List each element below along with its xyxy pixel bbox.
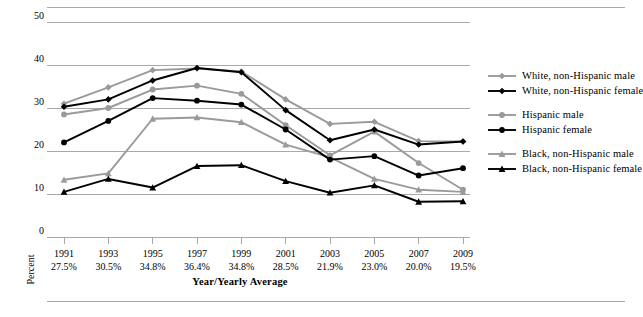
x-axis-average-label: 34.8% bbox=[131, 261, 175, 272]
data-point-marker bbox=[194, 65, 201, 72]
data-point-marker bbox=[499, 127, 505, 133]
y-axis-tick-label: 30 bbox=[22, 96, 44, 107]
legend-group: Hispanic maleHispanic female bbox=[487, 107, 643, 137]
data-point-marker bbox=[150, 87, 156, 93]
data-point-marker bbox=[149, 67, 156, 74]
data-point-marker bbox=[238, 91, 244, 97]
data-point-marker bbox=[416, 160, 422, 166]
legend-swatch-circle-icon bbox=[487, 123, 517, 137]
data-point-marker bbox=[105, 105, 111, 111]
legend-swatch-triangle-icon bbox=[487, 162, 517, 176]
data-point-marker bbox=[499, 87, 506, 94]
legend-item[interactable]: Black, non-Hispanic female bbox=[487, 161, 643, 176]
x-axis-year-label: 2003 bbox=[308, 248, 352, 259]
line-chart-plot-area: Percent Year/Yearly Average 01020304050 … bbox=[0, 0, 480, 260]
chart-legend: White, non-Hispanic maleWhite, non-Hispa… bbox=[487, 68, 643, 185]
legend-item[interactable]: Hispanic male bbox=[487, 107, 643, 122]
chart-svg bbox=[0, 0, 480, 260]
data-point-marker bbox=[327, 157, 333, 163]
y-axis-tick-label: 20 bbox=[22, 139, 44, 150]
x-axis-average-label: 34.8% bbox=[219, 261, 263, 272]
legend-item[interactable]: Hispanic female bbox=[487, 122, 643, 137]
data-point-marker bbox=[194, 83, 200, 89]
x-axis-year-label: 1991 bbox=[42, 248, 86, 259]
chart-series bbox=[61, 83, 466, 193]
legend-label: Black, non-Hispanic female bbox=[522, 162, 642, 176]
x-axis-year-label: 2005 bbox=[352, 248, 396, 259]
data-point-marker bbox=[150, 95, 156, 101]
data-point-marker bbox=[460, 138, 467, 145]
y-axis-title: Percent bbox=[25, 240, 36, 300]
data-point-marker bbox=[416, 173, 422, 179]
data-point-marker bbox=[61, 140, 67, 146]
x-axis-average-label: 28.5% bbox=[264, 261, 308, 272]
y-axis-tick-label: 0 bbox=[22, 225, 44, 236]
legend-label: White, non-Hispanic male bbox=[522, 69, 635, 83]
x-axis-title: Year/Yearly Average bbox=[0, 276, 480, 287]
legend-group: Black, non-Hispanic maleBlack, non-Hispa… bbox=[487, 146, 643, 176]
x-axis-year-label: 1993 bbox=[86, 248, 130, 259]
data-point-marker bbox=[105, 84, 112, 91]
data-point-marker bbox=[371, 153, 377, 159]
x-axis-average-label: 30.5% bbox=[86, 261, 130, 272]
x-axis-average-label: 21.9% bbox=[308, 261, 352, 272]
data-point-marker bbox=[499, 112, 505, 118]
legend-swatch-circle-icon bbox=[487, 108, 517, 122]
chart-series bbox=[61, 162, 467, 205]
legend-group: White, non-Hispanic maleWhite, non-Hispa… bbox=[487, 68, 643, 98]
data-point-marker bbox=[460, 165, 466, 171]
x-axis-average-label: 20.0% bbox=[397, 261, 441, 272]
legend-item[interactable]: White, non-Hispanic male bbox=[487, 68, 643, 83]
y-axis-tick-label: 40 bbox=[22, 53, 44, 64]
legend-item[interactable]: White, non-Hispanic female bbox=[487, 83, 643, 98]
series-line bbox=[64, 68, 463, 141]
legend-label: Hispanic female bbox=[522, 123, 592, 137]
x-axis-average-label: 27.5% bbox=[42, 261, 86, 272]
data-point-marker bbox=[283, 127, 289, 133]
x-axis-average-label: 36.4% bbox=[175, 261, 219, 272]
x-axis-year-label: 1997 bbox=[175, 248, 219, 259]
legend-swatch-triangle-icon bbox=[487, 147, 517, 161]
x-axis-year-label: 1999 bbox=[219, 248, 263, 259]
series-line bbox=[64, 117, 463, 191]
data-point-marker bbox=[499, 72, 506, 79]
chart-figure: Percent Year/Yearly Average 01020304050 … bbox=[0, 0, 643, 317]
x-axis-average-label: 23.0% bbox=[352, 261, 396, 272]
data-point-marker bbox=[105, 96, 112, 103]
data-point-marker bbox=[105, 118, 111, 124]
data-point-marker bbox=[415, 141, 422, 148]
bottom-divider-rule bbox=[47, 301, 625, 302]
legend-label: Black, non-Hispanic male bbox=[522, 147, 634, 161]
data-point-marker bbox=[149, 77, 156, 84]
data-point-marker bbox=[371, 118, 378, 125]
data-point-marker bbox=[61, 112, 67, 118]
legend-label: White, non-Hispanic female bbox=[522, 84, 643, 98]
series-line bbox=[64, 165, 463, 202]
data-point-marker bbox=[194, 98, 200, 104]
legend-swatch-diamond-icon bbox=[487, 84, 517, 98]
x-axis-year-label: 2001 bbox=[264, 248, 308, 259]
x-axis-average-label: 19.5% bbox=[441, 261, 485, 272]
data-point-marker bbox=[238, 102, 244, 108]
y-axis-tick-label: 50 bbox=[22, 10, 44, 21]
legend-item[interactable]: Black, non-Hispanic male bbox=[487, 146, 643, 161]
x-axis-year-label: 1995 bbox=[131, 248, 175, 259]
y-axis-tick-label: 10 bbox=[22, 182, 44, 193]
legend-label: Hispanic male bbox=[522, 108, 584, 122]
x-axis-year-label: 2009 bbox=[441, 248, 485, 259]
legend-swatch-diamond-icon bbox=[487, 69, 517, 83]
x-axis-year-label: 2007 bbox=[397, 248, 441, 259]
